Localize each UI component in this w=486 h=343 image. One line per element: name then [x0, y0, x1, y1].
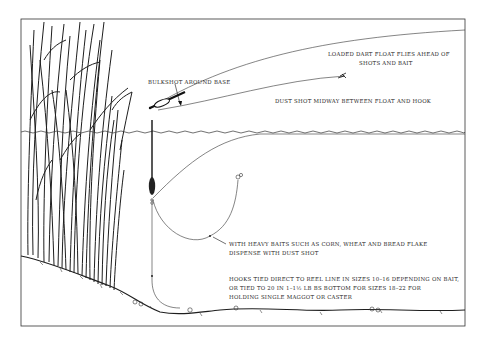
- reeds: [28, 22, 132, 290]
- settled-float: [149, 120, 155, 204]
- water-surface: [21, 131, 465, 133]
- bulkshot-arrowhead-icon: [178, 101, 182, 106]
- flying-dart-float: [149, 92, 185, 109]
- hook-with-bait: [236, 173, 243, 179]
- label-hooks-line1: HOOKS TIED DIRECT TO REEL LINE IN SIZES …: [229, 275, 459, 284]
- label-hooks-line2: OR TIED TO 20 IN 1–1½ LB BS BOTTOM FOR S…: [229, 284, 421, 293]
- sinking-line-loop: [153, 180, 238, 240]
- flying-hook-with-bait: [338, 73, 346, 78]
- label-heavy-baits-line1: WITH HEAVY BAITS SUCH AS CORN, WHEAT AND…: [229, 240, 427, 249]
- heavy-baits-arrow: [213, 237, 226, 244]
- label-dust-shot: DUST SHOT MIDWAY BETWEEN FLOAT AND HOOK: [275, 97, 431, 106]
- label-loaded-float-line1: LOADED DART FLOAT FLIES AHEAD OF: [328, 50, 450, 59]
- label-loaded-float-line2: SHOTS AND BAIT: [359, 59, 413, 68]
- sinking-line-upper: [153, 134, 465, 198]
- dust-shot-vertical: [151, 275, 153, 277]
- label-heavy-baits-line2: DISPENSE WITH DUST SHOT: [229, 249, 318, 258]
- label-hooks-line3: HOLDING SINGLE MAGGOT OR CASTER: [229, 293, 352, 302]
- dust-shot: [209, 235, 211, 237]
- label-bulkshot: BULKSHOT AROUND BASE: [148, 78, 230, 87]
- vertical-line: [152, 204, 180, 308]
